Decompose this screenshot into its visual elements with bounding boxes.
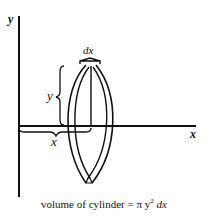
disk-inner-left — [75, 67, 90, 178]
disk-outer-right — [92, 65, 113, 183]
disk-bottom-cap — [86, 178, 92, 183]
dx-label: dx — [83, 44, 93, 56]
caption: volume of cylinder = π y2 dx — [41, 197, 167, 210]
y-brace — [56, 66, 64, 125]
caption-prefix: volume of cylinder = π y — [41, 198, 150, 210]
y-height-label: y — [47, 88, 53, 104]
y-axis-label: y — [8, 12, 13, 27]
caption-suffix: dx — [154, 198, 167, 210]
disk-method-diagram — [0, 0, 207, 219]
x-distance-label: x — [51, 134, 57, 150]
x-axis-label: x — [190, 127, 196, 142]
dx-bracket — [80, 58, 100, 64]
